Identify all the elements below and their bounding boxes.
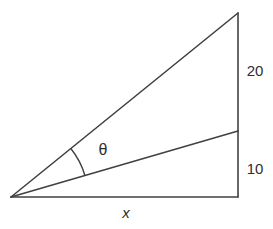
triangle-diagram-svg: [0, 0, 273, 229]
interior-line: [11, 131, 238, 197]
theta-angle-label: θ: [99, 142, 108, 158]
angle-arc: [71, 149, 85, 176]
upper-segment-label: 20: [247, 63, 264, 78]
base-length-label: x: [122, 205, 130, 220]
geometry-figure: θ 20 10 x: [0, 0, 273, 229]
lower-segment-label: 10: [247, 161, 264, 176]
hypotenuse-line: [11, 13, 238, 197]
